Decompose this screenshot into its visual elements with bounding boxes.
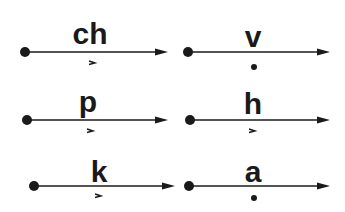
arrowhead-icon [155, 49, 168, 56]
start-dot-icon [29, 181, 39, 191]
phoneme-label: h [244, 87, 262, 120]
voiceless-tick-icon [87, 129, 93, 133]
phoneme-item-v: v [183, 20, 330, 70]
phoneme-item-p: p [22, 85, 168, 133]
start-dot-icon [183, 47, 193, 57]
phoneme-label: ch [72, 17, 107, 50]
voiced-dot-icon [251, 64, 257, 70]
phonetic-diagram: chvphka [0, 0, 345, 212]
arrowhead-icon [317, 183, 330, 190]
phoneme-label: p [79, 85, 97, 118]
phoneme-label: v [245, 20, 262, 53]
voiceless-tick-icon [95, 194, 101, 198]
arrowhead-icon [162, 183, 175, 190]
start-dot-icon [184, 181, 194, 191]
phoneme-item-h: h [185, 87, 330, 133]
arrowhead-icon [317, 49, 330, 56]
phoneme-label: k [91, 155, 108, 188]
start-dot-icon [22, 115, 32, 125]
start-dot-icon [185, 115, 195, 125]
phoneme-item-k: k [29, 155, 175, 198]
arrowhead-icon [317, 117, 330, 124]
arrowhead-icon [155, 117, 168, 124]
phoneme-label: a [245, 155, 262, 188]
phoneme-item-ch: ch [20, 17, 168, 65]
phoneme-item-a: a [184, 155, 330, 201]
diagram-canvas: chvphka [0, 0, 345, 212]
voiceless-tick-icon [249, 129, 255, 133]
voiced-dot-icon [251, 195, 257, 201]
voiceless-tick-icon [89, 61, 95, 65]
start-dot-icon [20, 47, 30, 57]
